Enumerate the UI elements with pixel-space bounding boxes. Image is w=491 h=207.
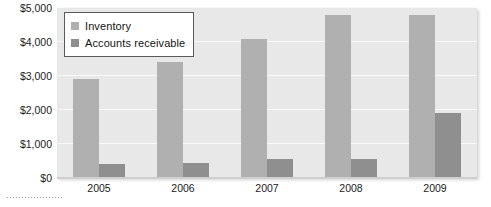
- legend-label: Accounts receivable: [85, 37, 185, 49]
- legend-swatch-icon: [71, 39, 79, 47]
- x-axis-tick-label: 2006: [171, 182, 194, 194]
- bar-inventory-2007: [241, 39, 267, 178]
- bar-accounts-receivable-2006: [183, 163, 209, 178]
- bar-chart: $0$1,000$2,000$3,000$4,000$5,000 2005200…: [0, 0, 491, 207]
- x-axis-tick-label: 2007: [255, 182, 278, 194]
- axis-baseline: [57, 177, 477, 179]
- bar-inventory-2008: [325, 15, 351, 178]
- legend-item-inventory: Inventory: [71, 17, 185, 34]
- bar-inventory-2009: [409, 15, 435, 178]
- bar-accounts-receivable-2008: [351, 159, 377, 178]
- legend-swatch-icon: [71, 22, 79, 30]
- x-axis-tick-label: 2008: [339, 182, 362, 194]
- dotted-rule-decoration: [6, 196, 62, 198]
- legend-item-accounts-receivable: Accounts receivable: [71, 34, 185, 51]
- bar-accounts-receivable-2005: [99, 164, 125, 178]
- x-axis-tick-label: 2009: [423, 182, 446, 194]
- y-axis-tick-label: $3,000: [0, 70, 52, 82]
- x-axis-tick-label: 2005: [87, 182, 110, 194]
- legend-label: Inventory: [85, 20, 131, 32]
- y-axis-tick-label: $0: [0, 172, 52, 184]
- y-axis-tick-label: $5,000: [0, 2, 52, 14]
- bar-inventory-2006: [157, 62, 183, 178]
- y-axis-tick-label: $4,000: [0, 36, 52, 48]
- y-axis-tick-label: $2,000: [0, 104, 52, 116]
- y-axis-tick-label: $1,000: [0, 138, 52, 150]
- bar-inventory-2005: [73, 79, 99, 178]
- chart-legend: Inventory Accounts receivable: [64, 12, 194, 57]
- bar-accounts-receivable-2007: [267, 159, 293, 178]
- bar-accounts-receivable-2009: [435, 113, 461, 178]
- gridline: [57, 7, 477, 8]
